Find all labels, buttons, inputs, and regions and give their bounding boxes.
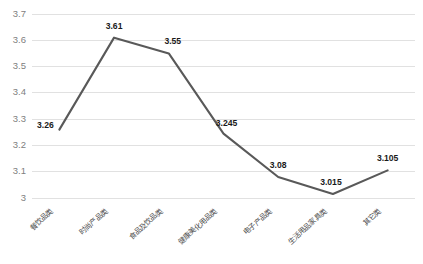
y-axis-tick-label: 3.4: [13, 86, 26, 97]
y-axis-tick-label: 3.6: [13, 34, 26, 45]
y-axis-tick-label: 3.5: [13, 60, 26, 71]
data-point-label: 3.26: [37, 120, 54, 130]
y-axis-tick-label: 3.7: [13, 8, 26, 19]
data-point-label: 3.015: [320, 177, 342, 187]
chart-canvas: 33.13.23.33.43.53.63.7 3.263.613.553.245…: [0, 0, 423, 264]
data-point-label: 3.08: [270, 160, 287, 170]
data-point-label: 3.105: [377, 153, 399, 163]
y-axis-tick-label: 3.1: [13, 165, 26, 176]
data-point-label: 3.61: [106, 21, 123, 31]
data-point-label: 3.245: [216, 118, 238, 128]
y-axis-tick-label: 3.3: [13, 113, 26, 124]
y-axis-tick-label: 3: [21, 192, 26, 203]
data-point-label: 3.55: [164, 36, 181, 46]
chart-background: [0, 0, 423, 264]
y-axis-tick-label: 3.2: [13, 139, 26, 150]
line-chart: 33.13.23.33.43.53.63.7 3.263.613.553.245…: [0, 0, 423, 264]
